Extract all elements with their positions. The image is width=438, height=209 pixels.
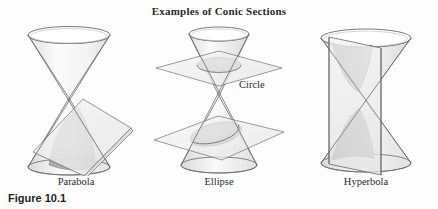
diagram-hyperbola — [296, 24, 436, 176]
diagram-parabola — [6, 24, 146, 176]
vertical-cutting-plane — [329, 37, 381, 175]
diagram-ellipse — [148, 24, 290, 176]
upper-rim — [28, 27, 110, 44]
caption-parabola: Parabola — [6, 176, 146, 187]
caption-ellipse: Ellipse — [148, 176, 290, 187]
upper-nappe — [28, 35, 110, 98]
figure-number: Figure 10.1 — [8, 192, 66, 204]
caption-hyperbola: Hyperbola — [296, 176, 436, 187]
circle-callout-label: Circle — [239, 79, 265, 90]
page-title: Examples of Conic Sections — [0, 5, 438, 17]
oblique-cutting-plane — [154, 116, 284, 160]
conic-sections-figure: Examples of Conic Sections — [0, 0, 438, 209]
